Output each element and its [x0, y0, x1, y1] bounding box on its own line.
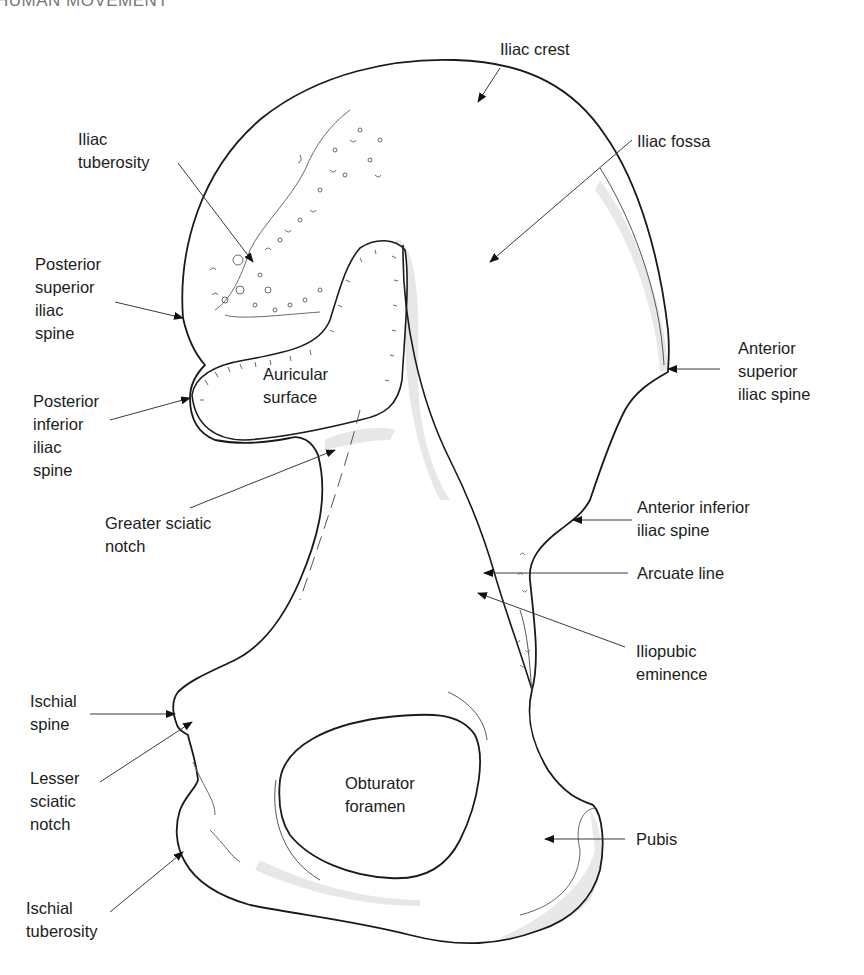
label-obturator-foramen: Obturator foramen [345, 772, 415, 818]
label-anterior-inferior-iliac-spine: Anterior inferior iliac spine [637, 496, 750, 542]
label-iliac-tuberosity: Iliac tuberosity [78, 128, 150, 174]
label-posterior-superior-iliac-spine: Posterior superior iliac spine [35, 253, 101, 345]
auricular-surface-outline [192, 241, 407, 440]
label-lesser-sciatic-notch: Lesser sciatic notch [30, 767, 80, 836]
label-ischial-tuberosity: Ischial tuberosity [26, 897, 98, 943]
label-auricular-surface: Auricular surface [263, 363, 328, 409]
label-pubis: Pubis [636, 828, 677, 851]
arcuate-line-ridge [403, 245, 532, 690]
label-ischial-spine: Ischial spine [30, 690, 77, 736]
label-arcuate-line: Arcuate line [637, 562, 724, 585]
label-iliac-crest: Iliac crest [500, 38, 570, 61]
label-greater-sciatic-notch: Greater sciatic notch [105, 512, 211, 558]
label-iliopubic-eminence: Iliopubic eminence [636, 640, 708, 686]
label-anterior-superior-iliac-spine: Anterior superior iliac spine [738, 337, 810, 406]
label-iliac-fossa: Iliac fossa [637, 130, 710, 153]
label-posterior-inferior-iliac-spine: Posterior inferior iliac spine [33, 390, 99, 482]
